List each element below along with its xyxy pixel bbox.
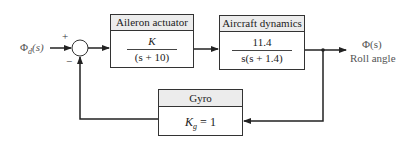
aircraft-dynamics-block: Aircraft dynamics 11.4 s(s + 1.4)	[219, 15, 305, 70]
aircraft-dynamics-title: Aircraft dynamics	[220, 16, 304, 32]
dynamics-denominator: s(s + 1.4)	[220, 52, 304, 65]
actuator-numerator: K	[111, 35, 193, 48]
summing-junction	[72, 40, 88, 56]
actuator-denominator: (s + 10)	[111, 51, 193, 64]
aileron-actuator-title: Aileron actuator	[111, 15, 193, 31]
input-label: Φd(s)	[20, 41, 44, 56]
fraction-bar	[127, 49, 177, 50]
minus-sign: −	[66, 55, 72, 67]
gyro-gain-value: = 1	[200, 115, 216, 129]
plus-sign: +	[62, 30, 68, 42]
dynamics-numerator: 11.4	[220, 36, 304, 49]
aileron-actuator-block: Aileron actuator K (s + 10)	[110, 14, 194, 68]
gyro-gain-subscript: g	[193, 122, 197, 131]
output-label: Roll angle	[350, 52, 396, 64]
gyro-gain-symbol: K	[185, 115, 193, 129]
output-symbol: Φ(s)	[362, 38, 382, 50]
gyro-block: Gyro Kg = 1	[158, 89, 243, 136]
input-symbol: Φ	[20, 41, 28, 53]
gyro-title: Gyro	[159, 90, 242, 107]
fraction-bar	[232, 50, 292, 51]
input-arg: (s)	[32, 41, 44, 53]
